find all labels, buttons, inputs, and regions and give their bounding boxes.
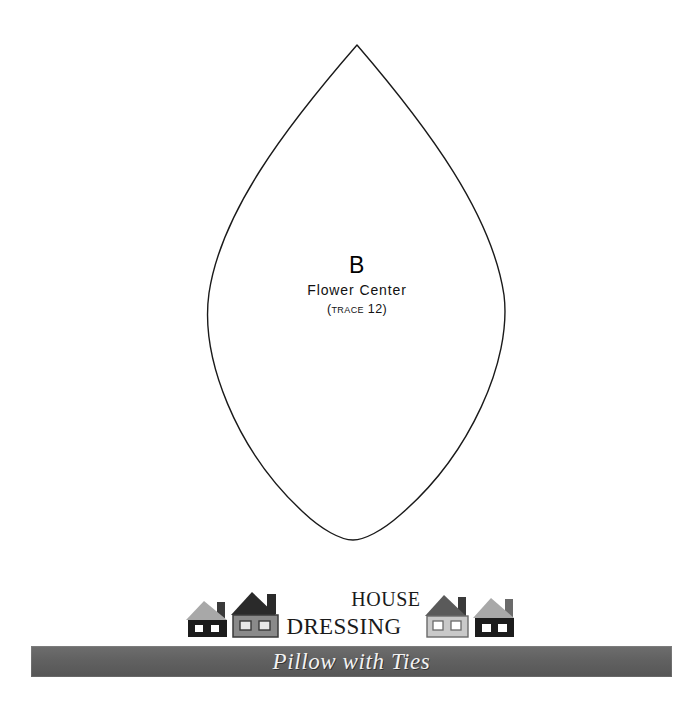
- house-icon: [186, 598, 231, 640]
- piece-name: Flower Center: [209, 281, 505, 300]
- project-title: Pillow with Ties: [273, 650, 431, 673]
- piece-trace-note: (Trace 12): [209, 301, 505, 318]
- brand-word-dressing: Dressing: [287, 607, 421, 640]
- house-icon: [473, 595, 519, 640]
- pattern-piece-labels: B Flower Center (Trace 12): [209, 252, 505, 318]
- piece-note-text: (Trace 12): [327, 302, 387, 316]
- project-title-banner: Pillow with Ties: [31, 646, 672, 677]
- brand-logo: House Dressing: [196, 580, 508, 640]
- brand-wordmark: House Dressing: [287, 582, 421, 640]
- house-icon: [425, 592, 473, 640]
- house-icon: [231, 590, 283, 640]
- piece-letter: B: [209, 252, 505, 278]
